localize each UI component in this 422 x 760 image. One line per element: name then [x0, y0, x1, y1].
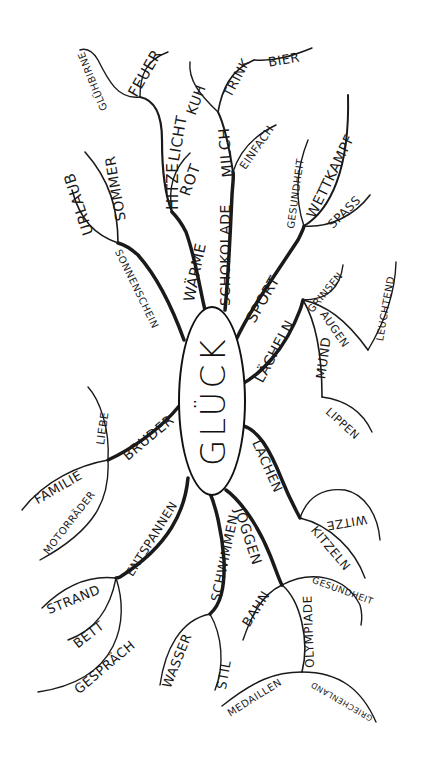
label-olympiade: OLYMPIADE [301, 595, 316, 668]
label-milch: MILCH [217, 127, 236, 178]
label-schokolade: SCHOKOLADE [218, 204, 232, 306]
mind-map-canvas: GLÜCK SONNENSCHEIN URLAUB SOMMER WÄRME H… [0, 0, 422, 760]
center-node-label: GLÜCK [196, 336, 230, 466]
